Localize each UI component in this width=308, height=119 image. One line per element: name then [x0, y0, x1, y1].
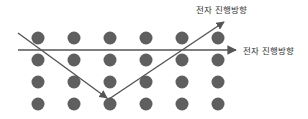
- atom-dot: [68, 98, 81, 111]
- atom-dot: [32, 54, 45, 67]
- atom-dot: [32, 32, 45, 45]
- atom-dot: [212, 54, 225, 67]
- atom-dot: [212, 32, 225, 45]
- atom-dot: [32, 76, 45, 89]
- atom-dot: [212, 98, 225, 111]
- atom-dot: [176, 32, 189, 45]
- atom-dot: [140, 54, 153, 67]
- atom-dot: [140, 98, 153, 111]
- horizontal-arrow-label: 전자 진행방향: [243, 44, 294, 56]
- atom-dot: [104, 54, 117, 67]
- atom-dot: [104, 98, 117, 111]
- atom-dot: [140, 32, 153, 45]
- atom-dot: [68, 32, 81, 45]
- atom-dot: [176, 98, 189, 111]
- atom-dot: [176, 54, 189, 67]
- diagonal-path-outgoing: [109, 22, 224, 99]
- diagonal-path-incoming: [18, 33, 107, 98]
- atom-dot: [212, 76, 225, 89]
- atom-lattice: [32, 32, 225, 111]
- electron-path-diagram: [0, 0, 308, 119]
- diagonal-arrow-label: 전자 진행방향: [196, 3, 247, 15]
- atom-dot: [104, 32, 117, 45]
- atom-dot: [104, 76, 117, 89]
- atom-dot: [176, 76, 189, 89]
- atom-dot: [32, 98, 45, 111]
- atom-dot: [68, 54, 81, 67]
